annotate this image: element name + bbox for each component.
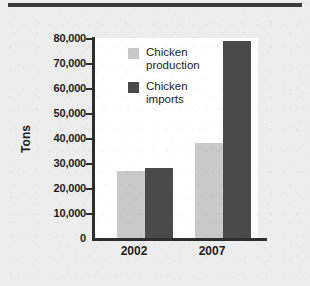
- y-axis-tick-labels: 80,000 70,000 60,000 50,000 40,000 30,00…: [26, 10, 86, 286]
- top-divider-rule: [8, 3, 302, 7]
- x-tick-label-2007: 2007: [173, 244, 251, 258]
- y-tick-label-50000: 50,000: [34, 107, 86, 119]
- legend-swatch-imports-icon: [128, 82, 139, 93]
- legend-swatch-production-icon: [128, 48, 139, 59]
- y-tick-label-60000: 60,000: [34, 82, 86, 94]
- bar-2002-imports[interactable]: [145, 168, 173, 238]
- page: Tons 80,000 70,000 60,000 50,000 40,000 …: [0, 0, 310, 286]
- y-tick-label-40000: 40,000: [34, 132, 86, 144]
- legend-label-imports: Chicken imports: [146, 80, 188, 105]
- y-tick-label-30000: 30,000: [34, 157, 86, 169]
- y-tick-label-80000: 80,000: [34, 32, 86, 44]
- bar-2002-production[interactable]: [117, 171, 145, 239]
- legend-item-imports[interactable]: Chicken imports: [128, 80, 248, 105]
- chart-legend: Chicken production Chicken imports: [128, 46, 248, 114]
- x-axis-line: [92, 238, 267, 241]
- bar-chart: Tons 80,000 70,000 60,000 50,000 40,000 …: [0, 10, 310, 286]
- bar-2007-production[interactable]: [195, 143, 223, 238]
- y-axis-line: [92, 37, 95, 239]
- y-tick-label-10000: 10,000: [34, 207, 86, 219]
- legend-item-production[interactable]: Chicken production: [128, 46, 248, 71]
- x-tick-label-2002: 2002: [95, 244, 173, 258]
- legend-label-production: Chicken production: [146, 46, 200, 71]
- y-tick-label-70000: 70,000: [34, 57, 86, 69]
- y-tick-label-0: 0: [34, 232, 86, 244]
- y-tick-label-20000: 20,000: [34, 182, 86, 194]
